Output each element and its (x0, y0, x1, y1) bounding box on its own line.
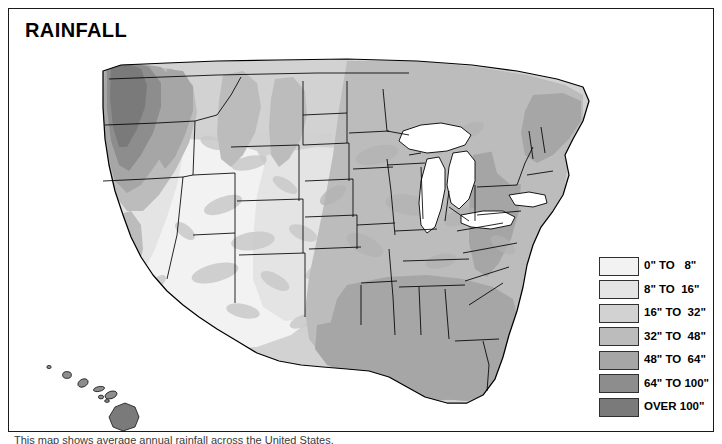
legend-swatch-8-16 (599, 280, 639, 299)
map-frame: RAINFALL (8, 8, 714, 432)
map-canvas (17, 35, 595, 439)
rainfall-shading-layer (47, 59, 589, 431)
hawaii-inset (47, 365, 139, 431)
legend-swatch-16-32 (599, 304, 639, 323)
legend: 0" TO 8" 8" TO 16" 16" TO 32" 32" TO 48"… (599, 256, 722, 421)
legend-item: OVER 100" (599, 397, 722, 417)
legend-swatch-64-100 (599, 374, 639, 393)
legend-swatch-0-8 (599, 257, 639, 276)
legend-item: 64" TO 100" (599, 374, 722, 394)
legend-item: 8" TO 16" (599, 280, 722, 300)
hawaii-lanai (98, 395, 103, 399)
hawaii-maui (104, 389, 118, 400)
legend-label-64-100: 64" TO 100" (644, 378, 709, 390)
united-states-rainfall-map (17, 35, 595, 439)
legend-label-32-48: 32" TO 48" (644, 331, 706, 343)
legend-label-over-100: OVER 100" (644, 401, 704, 413)
legend-label-48-64: 48" TO 64" (644, 354, 706, 366)
hawaii-big-island (109, 403, 139, 431)
hawaii-kauai (63, 372, 72, 379)
legend-label-8-16: 8" TO 16" (644, 284, 699, 296)
legend-item: 16" TO 32" (599, 303, 722, 323)
lake-ontario (509, 192, 547, 207)
hawaii-oahu (76, 377, 89, 389)
legend-label-0-8: 0" TO 8" (644, 260, 696, 272)
legend-item: 32" TO 48" (599, 327, 722, 347)
legend-swatch-32-48 (599, 327, 639, 346)
legend-item: 0" TO 8" (599, 256, 722, 276)
caption-text: This map shows average annual rainfall a… (14, 434, 704, 444)
hawaii-kahoolawe (105, 400, 110, 403)
hawaii-niihau (47, 365, 51, 368)
legend-swatch-over-100 (599, 398, 639, 417)
band-48-64-gulf (315, 315, 489, 401)
legend-item: 48" TO 64" (599, 350, 722, 370)
hawaii-molokai (93, 385, 105, 392)
legend-swatch-48-64 (599, 351, 639, 370)
rainfall-map-page: RAINFALL (0, 0, 722, 444)
band-32-48-sierra (107, 211, 143, 307)
legend-label-16-32: 16" TO 32" (644, 307, 706, 319)
